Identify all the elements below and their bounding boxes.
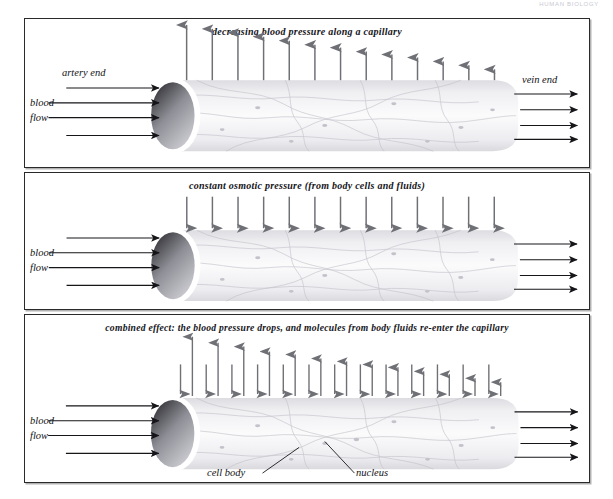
panel-1-caption: decreasing blood pressure along a capill… — [25, 26, 589, 37]
blood-flow-in-arrows — [49, 88, 160, 135]
blood-flow-out-arrows — [515, 412, 578, 457]
label-flow: flow — [30, 430, 48, 441]
outward-pressure-arrows — [192, 337, 500, 396]
label-vein-end: vein end — [522, 74, 557, 85]
panel-combined-effect: combined effect: the blood pressure drop… — [24, 314, 590, 483]
panel-2-graphics — [25, 173, 590, 309]
blood-flow-in-arrows — [48, 406, 159, 453]
label-blood: blood — [30, 97, 54, 108]
capillary-tube — [149, 78, 518, 153]
panel-2-caption: constant osmotic pressure (from body cel… — [25, 180, 589, 191]
panel-3-caption: combined effect: the blood pressure drop… — [25, 322, 589, 333]
panel-decreasing-blood-pressure: decreasing blood pressure along a capill… — [24, 18, 590, 168]
blood-flow-out-arrows — [514, 94, 577, 139]
label-nucleus: nucleus — [356, 467, 388, 478]
inward-osmotic-arrows — [187, 197, 494, 229]
page-header: HUMAN BIOLOGY — [0, 1, 613, 10]
label-artery-end: artery end — [62, 67, 105, 78]
panel-constant-osmotic-pressure: constant osmotic pressure (from body cel… — [24, 172, 590, 310]
label-cell-body: cell body — [207, 467, 245, 478]
label-blood: blood — [30, 415, 54, 426]
capillary-tube — [149, 396, 519, 471]
blood-flow-out-arrows — [514, 244, 577, 289]
label-flow: flow — [30, 112, 48, 123]
leader-lines — [263, 441, 355, 473]
label-flow: flow — [30, 262, 48, 273]
inward-osmotic-arrows — [181, 364, 489, 394]
capillary-exchange-figure: HUMAN BIOLOGY decreasing blood pressure … — [0, 0, 613, 499]
label-blood: blood — [30, 247, 54, 258]
panel-1-graphics — [25, 19, 590, 167]
panel-3-graphics — [25, 315, 590, 482]
capillary-tube — [149, 228, 518, 303]
blood-flow-in-arrows — [49, 238, 159, 285]
